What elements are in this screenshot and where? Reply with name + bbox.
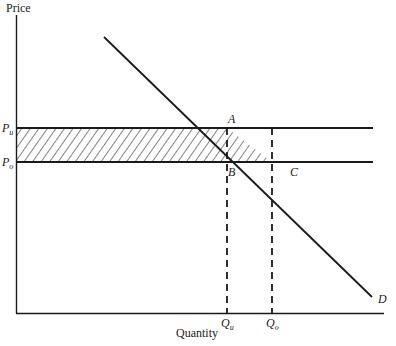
- price-label-lower: Po: [1, 155, 13, 171]
- x-axis-label: Quantity: [176, 326, 218, 340]
- point-label-c: C: [290, 165, 299, 179]
- diagram-canvas: Price Quantity Pu Po Qu Qo A B C D: [0, 0, 396, 346]
- quantity-label-left: Qu: [221, 316, 234, 332]
- y-axis-label: Price: [6, 1, 31, 15]
- price-label-upper: Pu: [1, 121, 13, 137]
- demand-curve: [104, 37, 372, 297]
- quantity-label-right: Qo: [266, 316, 279, 332]
- shaded-area: [17, 128, 272, 162]
- point-label-a: A: [227, 112, 236, 126]
- demand-curve-label: D: [377, 292, 387, 306]
- point-label-b: B: [228, 165, 236, 179]
